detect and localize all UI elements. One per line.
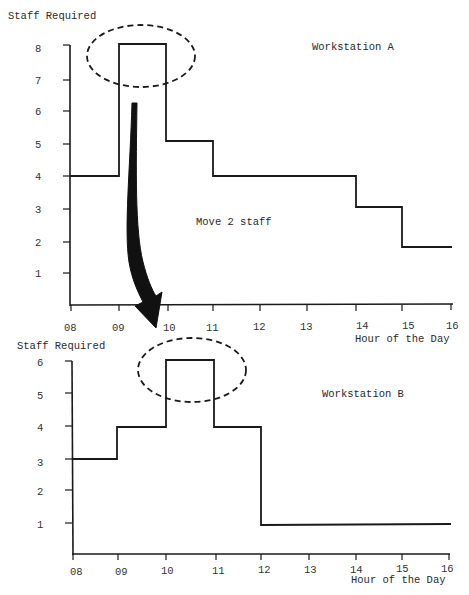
chart-b-x-ticks: [73, 554, 449, 560]
svg-text:3: 3: [35, 204, 41, 216]
chart-b-y-axis-label: Staff Required: [17, 340, 105, 352]
svg-text:3: 3: [37, 457, 43, 469]
svg-text:11: 11: [206, 322, 219, 334]
svg-text:09: 09: [115, 566, 128, 578]
svg-text:13: 13: [304, 564, 317, 576]
chart-a-y-tick-labels: 8 7 6 5 4 3 2 1: [35, 43, 41, 280]
chart-a-peak-highlight-ellipse: [87, 25, 195, 87]
chart-b-y-tick-labels: 6 5 4 3 2 1: [37, 357, 43, 531]
svg-text:7: 7: [35, 75, 41, 87]
chart-a-title: Workstation A: [312, 41, 395, 53]
chart-b-x-axis-label: Hour of the Day: [351, 574, 446, 586]
svg-text:5: 5: [37, 390, 43, 402]
svg-text:5: 5: [35, 139, 41, 151]
chart-a-x-axis-label: Hour of the Day: [355, 333, 450, 345]
chart-b-title: Workstation B: [322, 388, 404, 400]
svg-text:6: 6: [37, 357, 43, 369]
chart-a-y-axis-label: Staff Required: [8, 10, 96, 22]
svg-text:4: 4: [35, 171, 41, 183]
chart-a-y-ticks: [63, 45, 70, 273]
svg-text:6: 6: [35, 106, 41, 118]
svg-text:14: 14: [356, 320, 369, 332]
chart-b-peak-highlight-ellipse: [138, 338, 246, 402]
svg-text:09: 09: [112, 322, 125, 334]
svg-text:15: 15: [402, 320, 415, 332]
svg-text:08: 08: [70, 566, 83, 578]
svg-text:13: 13: [300, 321, 313, 333]
chart-b-y-axis: [72, 361, 73, 555]
svg-text:1: 1: [35, 268, 41, 280]
svg-text:2: 2: [35, 237, 41, 249]
svg-text:12: 12: [253, 321, 266, 333]
chart-workstation-a: Staff Required Workstation A 8 7 6 5 4 3…: [8, 10, 459, 345]
svg-text:10: 10: [163, 322, 176, 334]
move-staff-annotation: Move 2 staff: [196, 216, 272, 228]
chart-workstation-b: Staff Required Workstation B 6 5 4 3 2 1: [17, 338, 454, 586]
svg-text:4: 4: [37, 422, 43, 434]
svg-text:16: 16: [446, 320, 459, 332]
chart-a-x-axis: [70, 304, 453, 305]
svg-text:12: 12: [258, 564, 271, 576]
svg-text:8: 8: [35, 43, 41, 55]
svg-text:10: 10: [161, 565, 174, 577]
staffing-figure: Staff Required Workstation A 8 7 6 5 4 3…: [0, 0, 469, 595]
svg-text:2: 2: [37, 486, 43, 498]
chart-b-y-ticks: [65, 361, 72, 523]
svg-text:1: 1: [37, 519, 43, 531]
chart-a-x-tick-labels: 08 09 10 11 12 13 14 15 16: [64, 320, 459, 334]
curved-arrow-icon: [127, 103, 162, 328]
svg-text:08: 08: [64, 322, 77, 334]
move-staff-arrow: [127, 103, 162, 328]
svg-text:11: 11: [212, 565, 225, 577]
chart-b-step-line: [73, 360, 451, 525]
